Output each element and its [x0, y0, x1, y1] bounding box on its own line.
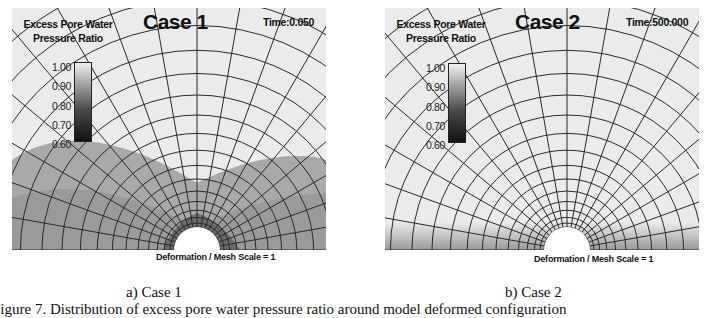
legend-title-line2: Pressure Ratio: [387, 32, 495, 45]
colorbar-tick: 1.00: [426, 62, 445, 74]
legend-title-line1: Excess Pore Water: [14, 18, 122, 31]
legend-title-line1: Excess Pore Water: [387, 18, 495, 31]
colorbar-tick: 0.80: [426, 101, 445, 113]
time-label: Time:0.050: [263, 16, 314, 28]
case1-subcaption: a) Case 1: [126, 284, 182, 301]
case-title: Case 2: [515, 10, 580, 34]
case1-scale-label: Deformation / Mesh Scale = 1: [156, 252, 275, 262]
colorbar-tick: 0.60: [52, 138, 71, 150]
colorbar-tick: 0.70: [426, 120, 445, 132]
colorbar-tick: 0.90: [426, 81, 445, 93]
time-label: Time:500.000: [626, 16, 688, 28]
colorbar-tick: 0.80: [52, 100, 71, 112]
legend-title-line2: Pressure Ratio: [14, 32, 122, 45]
case2-contour-panel: Excess Pore Water Pressure Ratio Case 2 …: [385, 8, 699, 250]
colorbar: [448, 63, 466, 143]
colorbar-tick: 1.00: [52, 61, 71, 73]
colorbar: [74, 62, 92, 142]
case-title: Case 1: [143, 10, 208, 34]
colorbar-tick: 0.70: [52, 119, 71, 131]
colorbar-tick: 0.60: [426, 139, 445, 151]
case2-subcaption: b) Case 2: [505, 284, 562, 301]
case1-contour-panel: Excess Pore Water Pressure Ratio Case 1 …: [12, 8, 326, 250]
figure-caption: Figure 7. Distribution of excess pore wa…: [0, 301, 566, 318]
case2-scale-label: Deformation / Mesh Scale = 1: [534, 254, 653, 264]
colorbar-tick: 0.90: [52, 80, 71, 92]
